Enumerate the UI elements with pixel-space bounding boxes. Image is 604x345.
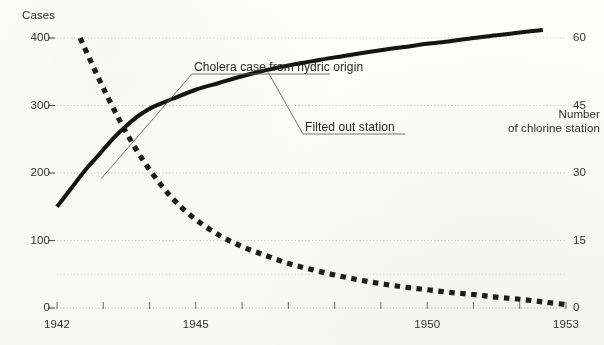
y-tick-label: 300 <box>18 99 50 112</box>
y-tick-label: 200 <box>18 166 50 179</box>
annotation-cholera: Cholera case from hydric origin <box>194 61 363 74</box>
y2-tick-label: 45 <box>573 99 586 112</box>
series-line-1 <box>80 38 566 305</box>
left-axis-title: Cases <box>22 9 55 22</box>
x-tick-label: 1950 <box>411 318 443 331</box>
series-line-2 <box>57 30 543 207</box>
y2-tick-label: 15 <box>573 234 586 247</box>
y2-tick-label: 60 <box>573 31 586 44</box>
y-tick-label: 100 <box>18 234 50 247</box>
right-axis-title-line1: Number <box>516 107 600 121</box>
x-tick-label: 1942 <box>41 318 73 331</box>
y-tick-label: 0 <box>18 301 50 314</box>
y2-tick-label: 0 <box>573 301 580 314</box>
x-tick-label: 1953 <box>550 318 582 331</box>
annotation-filtered: Filted out station <box>305 121 395 134</box>
y2-tick-label: 30 <box>573 166 586 179</box>
y-tick-label: 400 <box>18 31 50 44</box>
chart-canvas <box>0 0 604 345</box>
x-tick-label: 1945 <box>180 318 212 331</box>
right-axis-title-line2: of chlorine station <box>500 121 600 135</box>
chart-figure: Cases Number of chlorine station Cholera… <box>0 0 604 345</box>
